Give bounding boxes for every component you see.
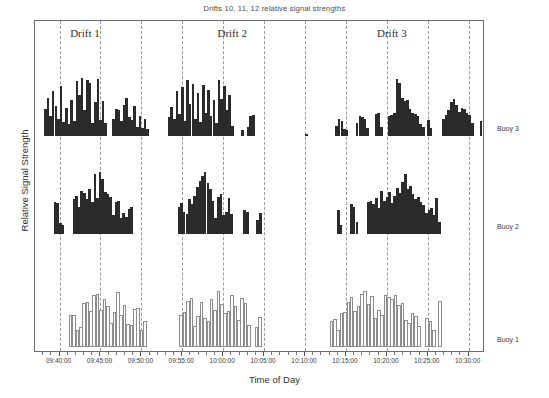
drift-label-1: Drift 1: [70, 27, 100, 39]
x-tick-minor: [116, 352, 117, 355]
bar: [438, 301, 442, 347]
x-tick-major: [140, 352, 141, 356]
x-tick-minor: [361, 352, 362, 355]
x-tick-minor: [459, 352, 460, 355]
series-label-buoy-1: Buoy 1: [497, 336, 519, 343]
x-tick-minor: [165, 352, 166, 355]
x-tick-major: [59, 352, 60, 356]
x-tick-minor: [378, 352, 379, 355]
x-tick-minor: [214, 352, 215, 355]
x-tick-major: [386, 352, 387, 356]
x-tick-minor: [451, 352, 452, 355]
x-tick-minor: [67, 352, 68, 355]
x-tick-minor: [402, 352, 403, 355]
x-tick-label: 09:45:00: [87, 357, 112, 364]
x-tick-minor: [239, 352, 240, 355]
x-tick-minor: [312, 352, 313, 355]
x-tick-minor: [435, 352, 436, 355]
x-tick-major: [427, 352, 428, 356]
x-tick-label: 10:25:00: [414, 357, 439, 364]
x-tick-label: 10:30:00: [455, 357, 480, 364]
x-tick-minor: [132, 352, 133, 355]
x-tick-minor: [206, 352, 207, 355]
x-tick-label: 10:15:00: [332, 357, 357, 364]
x-tick-minor: [410, 352, 411, 355]
x-tick-minor: [443, 352, 444, 355]
plot-area: Drift 1Drift 2Drift 3: [34, 20, 484, 352]
x-tick-minor: [369, 352, 370, 355]
x-tick-minor: [329, 352, 330, 355]
series-label-buoy-2: Buoy 2: [497, 223, 519, 230]
x-tick-minor: [288, 352, 289, 355]
y-axis-title: Relative Signal Strength: [19, 81, 30, 281]
x-tick-minor: [419, 352, 420, 355]
x-tick-minor: [108, 352, 109, 355]
x-tick-minor: [255, 352, 256, 355]
x-tick-minor: [230, 352, 231, 355]
x-tick-label: 09:55:00: [169, 357, 194, 364]
x-tick-label: 10:20:00: [373, 357, 398, 364]
x-axis-title: Time of Day: [0, 374, 549, 385]
chart-title: Drifts 10, 11, 12 relative signal streng…: [0, 4, 549, 13]
drift-label-3: Drift 3: [377, 27, 407, 39]
x-tick-minor: [50, 352, 51, 355]
x-tick-major: [99, 352, 100, 356]
x-tick-minor: [173, 352, 174, 355]
x-tick-major: [468, 352, 469, 356]
x-tick-minor: [124, 352, 125, 355]
x-tick-label: 09:40:00: [46, 357, 71, 364]
chart-figure: Drifts 10, 11, 12 relative signal streng…: [0, 0, 549, 398]
bar: [143, 321, 147, 347]
x-tick-label: 10:05:00: [250, 357, 275, 364]
series-buoy-1: [35, 21, 483, 353]
x-tick-major: [263, 352, 264, 356]
bar: [432, 330, 436, 347]
x-tick-minor: [247, 352, 248, 355]
x-tick-minor: [149, 352, 150, 355]
x-tick-label: 10:00:00: [210, 357, 235, 364]
x-tick-label: 09:50:00: [128, 357, 153, 364]
x-tick-minor: [91, 352, 92, 355]
x-tick-major: [181, 352, 182, 356]
x-tick-minor: [42, 352, 43, 355]
x-tick-major: [222, 352, 223, 356]
bar: [417, 326, 421, 347]
x-tick-minor: [83, 352, 84, 355]
x-tick-minor: [198, 352, 199, 355]
x-tick-minor: [271, 352, 272, 355]
x-tick-minor: [353, 352, 354, 355]
x-tick-minor: [394, 352, 395, 355]
bar: [247, 325, 251, 347]
x-tick-minor: [337, 352, 338, 355]
x-tick-minor: [279, 352, 280, 355]
drift-label-2: Drift 2: [217, 27, 247, 39]
x-tick-major: [304, 352, 305, 356]
series-label-buoy-3: Buoy 3: [497, 125, 519, 132]
x-tick-minor: [320, 352, 321, 355]
x-tick-minor: [296, 352, 297, 355]
x-tick-minor: [75, 352, 76, 355]
x-tick-minor: [189, 352, 190, 355]
x-tick-major: [345, 352, 346, 356]
x-tick-label: 10:10:00: [291, 357, 316, 364]
bar: [258, 317, 262, 347]
x-tick-minor: [157, 352, 158, 355]
